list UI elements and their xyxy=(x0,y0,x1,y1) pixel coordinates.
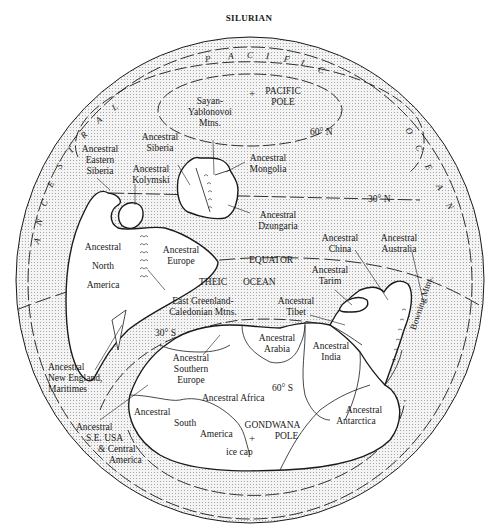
lat-60n-label: 60° N xyxy=(310,127,333,138)
antarctica-label: Ancestral Antarctica xyxy=(328,405,384,427)
kolymski-label: Ancestral Kolymski xyxy=(126,164,176,186)
lat-30n-label: 30° N xyxy=(368,194,391,205)
southern-europe-label: Ancestral Southern Europe xyxy=(166,353,216,386)
map-title: SILURIAN xyxy=(0,13,498,23)
india-label: Ancestral India xyxy=(307,341,355,363)
theic-label: THEIC xyxy=(199,277,227,288)
se-usa-central-america-label: Ancestral S.E. USA & Central America xyxy=(76,422,148,466)
ice-cap-label: ice cap xyxy=(226,447,253,458)
china-label: Ancestral China xyxy=(316,233,364,255)
dzungaria-label: Ancestral Dzungaria xyxy=(252,210,304,232)
pacific-pole-marker: + xyxy=(249,88,255,99)
theic-ocean-label: OCEAN xyxy=(243,277,276,288)
africa-label: Ancestral Africa xyxy=(202,393,265,404)
arabia-label: Ancestral Arabia xyxy=(253,333,301,355)
europe-label: Ancestral Europe xyxy=(157,245,205,267)
mongolia-label: Ancestral Mongolia xyxy=(243,153,293,175)
east-greenland-mtns-label: East Greenland- Caledonian Mtns. xyxy=(162,296,244,318)
tarim-label: Ancestral Tarim xyxy=(306,265,354,287)
tibet-label: Ancestral Tibet xyxy=(272,296,320,318)
lat-30s-label: 30° S xyxy=(155,328,176,339)
siberia-mongolia-block xyxy=(177,158,238,219)
siberia-label: Ancestral Siberia xyxy=(135,132,185,154)
new-england-maritimes-label: Ancestral New England, Maritimes xyxy=(48,362,110,395)
pacific-pole-label: PACIFIC POLE xyxy=(258,86,308,108)
gondwana-pole-label: GONDWANA POLE xyxy=(235,420,310,442)
gondwana-pole-marker: + xyxy=(249,433,255,444)
australia-label: Ancestral Australia xyxy=(375,233,423,255)
equator-label: EQUATOR xyxy=(249,255,293,266)
eastern-siberia-label: Ancestral Eastern Siberia xyxy=(76,144,124,177)
lat-60s-label: 60° S xyxy=(272,383,293,394)
sayan-mtns-label: Sayan- Yablonovoi Mtns. xyxy=(185,96,235,129)
north-america-label: Ancestral North America xyxy=(79,238,127,295)
kolymski-island xyxy=(119,203,144,228)
